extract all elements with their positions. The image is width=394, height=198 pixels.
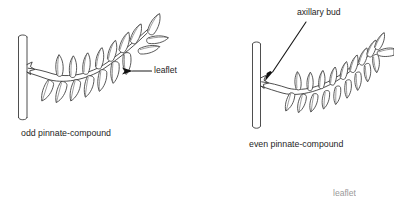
caption-even-pinnate-compound: even pinnate-compound xyxy=(249,140,343,150)
label-leaflet: leaflet xyxy=(154,66,177,75)
terminal-leaflet-odd xyxy=(148,14,161,35)
even-pinnate-drawing xyxy=(253,33,394,129)
stem-odd xyxy=(19,35,28,120)
stem-even xyxy=(253,42,261,128)
figure-illustration xyxy=(0,0,394,198)
label-leaflet-cutoff: leaflet xyxy=(333,189,356,198)
axillary-bud-arrow xyxy=(265,22,306,81)
odd-pinnate-drawing xyxy=(19,14,169,120)
caption-odd-pinnate-compound: odd pinnate-compound xyxy=(21,129,111,139)
botany-figure: leaflet axillary bud odd pinnate-compoun… xyxy=(0,0,394,198)
leaflets-odd-tip-lateral xyxy=(138,36,168,54)
label-axillary-bud: axillary bud xyxy=(297,8,340,17)
terminal-pair-even xyxy=(375,33,394,57)
